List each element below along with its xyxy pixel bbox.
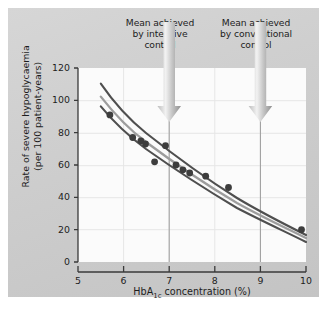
- data-point: [180, 166, 187, 173]
- x-tick-5: 5: [67, 275, 89, 286]
- x-tick-6: 6: [113, 275, 135, 286]
- scatter-points: [107, 112, 305, 234]
- y-axis-label: Rate of severe hypoglycaemia (per 100 pa…: [20, 18, 45, 214]
- data-point: [107, 112, 114, 119]
- x-axis-label-pre: HbA: [133, 286, 153, 297]
- y-tick-20: 20: [36, 224, 70, 235]
- confidence-band-upper: [101, 84, 306, 235]
- x-tick-9: 9: [249, 275, 271, 286]
- fitted-curve: [101, 97, 306, 238]
- y-tick-120: 120: [36, 62, 70, 73]
- y-axis-label-line1: Rate of severe hypoglycaemia: [20, 45, 31, 187]
- x-tick-10: 10: [295, 275, 317, 286]
- y-axis-label-line2: (per 100 patient-years): [32, 62, 43, 171]
- data-point: [142, 141, 149, 148]
- data-point: [225, 184, 232, 191]
- x-tick-7: 7: [158, 275, 180, 286]
- arrow-intensive-control-icon: [157, 22, 181, 122]
- x-axis-label-subscript: 1c: [153, 292, 161, 300]
- x-axis-label: HbA1c concentration (%): [78, 286, 306, 300]
- y-tick-100: 100: [36, 94, 70, 105]
- y-tick-0: 0: [36, 256, 70, 267]
- data-point: [186, 170, 193, 177]
- y-tick-40: 40: [36, 191, 70, 202]
- figure-container: Mean achieved by intensive control Mean …: [0, 0, 327, 319]
- arrow-conventional-control-icon: [249, 22, 273, 122]
- data-point: [129, 134, 136, 141]
- y-tick-80: 80: [36, 127, 70, 138]
- data-point: [173, 162, 180, 169]
- gridlines: [78, 68, 306, 262]
- x-axis-label-post: concentration (%): [162, 286, 251, 297]
- y-tick-60: 60: [36, 159, 70, 170]
- x-tick-8: 8: [204, 275, 226, 286]
- data-point: [202, 173, 209, 180]
- data-point: [298, 226, 305, 233]
- data-point: [162, 142, 169, 149]
- data-point: [151, 158, 158, 165]
